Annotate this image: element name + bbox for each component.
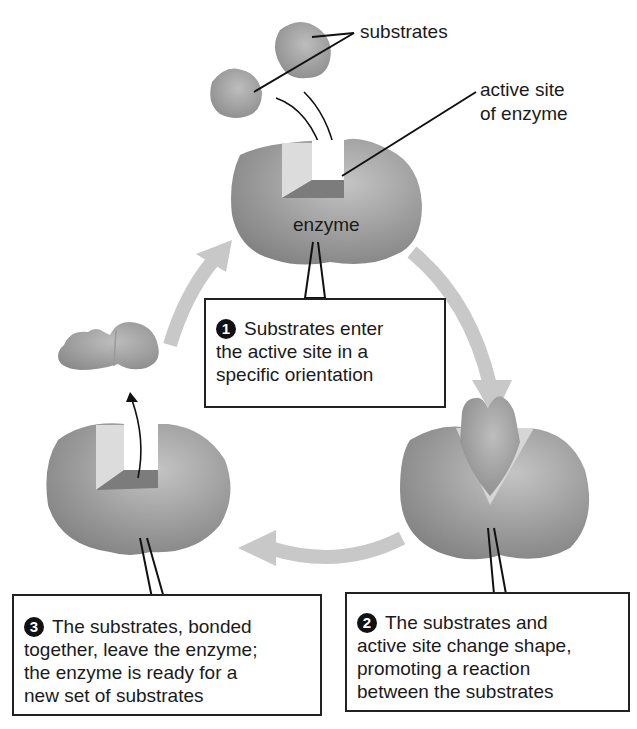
step3-line3: the enzyme is ready for a	[24, 661, 310, 684]
active-site-label-line2: of enzyme	[480, 103, 568, 125]
step3-line4: new set of substrates	[24, 684, 310, 707]
substrate-molecule-1	[275, 22, 331, 78]
step1-callout: 1Substrates enter the active site in a s…	[204, 298, 446, 408]
step3-number-badge: 3	[24, 617, 44, 637]
step2-line1: The substrates and	[385, 612, 548, 633]
step1-line3: specific orientation	[216, 363, 434, 386]
step3-line1: The substrates, bonded	[52, 616, 252, 637]
step2-line4: between the substrates	[357, 680, 618, 703]
enzyme-cycle-diagram: substrates active site of enzyme enzyme …	[0, 0, 637, 729]
step2-line2: active site change shape,	[357, 634, 618, 657]
enzyme-bottom-left	[46, 422, 230, 555]
cycle-arrow-2-to-3	[238, 530, 402, 566]
substrate-molecule-2	[210, 69, 262, 119]
step1-line2: the active site in a	[216, 340, 434, 363]
step1-line1: Substrates enter	[244, 318, 383, 339]
enzyme-label: enzyme	[293, 214, 360, 236]
active-site-pointer-line	[342, 92, 476, 176]
step2-line3: promoting a reaction	[357, 657, 618, 680]
step3-callout: 3The substrates, bonded together, leave …	[12, 594, 322, 716]
product-molecule	[58, 322, 159, 370]
enzyme-top	[231, 139, 422, 265]
step2-number-badge: 2	[357, 613, 377, 633]
substrates-label: substrates	[360, 21, 448, 43]
step1-number-badge: 1	[216, 319, 236, 339]
step2-callout: 2The substrates and active site change s…	[345, 592, 630, 712]
step3-line2: together, leave the enzyme;	[24, 638, 310, 661]
active-site-label-line1: active site	[480, 79, 564, 101]
